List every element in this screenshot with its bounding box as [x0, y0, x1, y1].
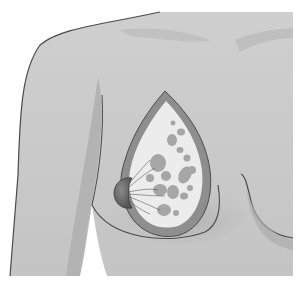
breast-anatomy-illustration — [0, 0, 301, 281]
illustration-canvas: Medical illustration of breast anatomy c… — [0, 0, 301, 281]
